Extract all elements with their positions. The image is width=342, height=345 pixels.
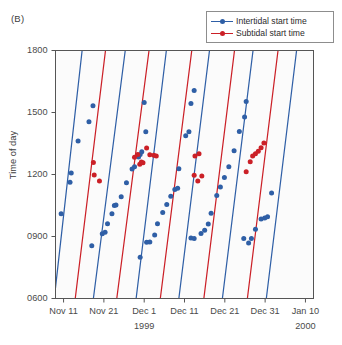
data-point xyxy=(192,88,197,93)
data-point xyxy=(261,141,266,146)
data-point xyxy=(164,202,169,207)
data-point xyxy=(244,169,249,174)
y-tick-label: 1200 xyxy=(14,169,48,179)
figure-panel-b: (B) Intertidal start time Subtidal start… xyxy=(0,0,342,345)
legend-item-intertidal: Intertidal start time xyxy=(211,15,328,27)
data-point xyxy=(147,240,152,245)
x-tick-label: Jan 10 xyxy=(275,306,335,316)
data-point xyxy=(218,184,223,189)
data-point xyxy=(259,145,264,150)
data-point xyxy=(76,139,81,144)
data-point xyxy=(119,194,124,199)
data-point xyxy=(160,210,165,215)
data-point xyxy=(253,227,258,232)
data-point xyxy=(244,99,249,104)
data-point xyxy=(242,115,247,120)
data-point xyxy=(135,152,140,157)
data-point xyxy=(105,221,110,226)
data-point xyxy=(124,180,129,185)
data-point xyxy=(143,129,148,134)
legend-marker-subtidal-icon xyxy=(211,27,233,39)
data-point xyxy=(113,202,118,207)
data-point xyxy=(90,103,95,108)
data-point xyxy=(86,119,91,124)
data-point xyxy=(152,233,157,238)
data-point xyxy=(232,148,237,153)
y-tick-label: 0900 xyxy=(14,231,48,241)
data-point xyxy=(202,228,207,233)
data-point xyxy=(103,230,108,235)
data-point xyxy=(155,221,160,226)
data-point xyxy=(142,100,147,105)
data-point xyxy=(195,179,200,184)
data-point xyxy=(183,133,188,138)
data-point xyxy=(92,173,97,178)
data-point xyxy=(248,159,253,164)
data-point xyxy=(144,146,149,151)
data-point xyxy=(222,175,227,180)
data-point xyxy=(175,186,180,191)
data-point xyxy=(188,101,193,106)
legend-label-subtidal: Subtidal start time xyxy=(233,27,305,39)
legend-label-intertidal: Intertidal start time xyxy=(233,15,307,27)
data-point xyxy=(197,151,202,156)
legend-item-subtidal: Subtidal start time xyxy=(211,27,328,39)
data-point xyxy=(168,194,173,199)
data-point xyxy=(214,193,219,198)
data-point xyxy=(246,241,251,246)
data-point xyxy=(237,129,242,134)
data-point xyxy=(206,222,211,227)
data-point xyxy=(199,173,204,178)
data-point xyxy=(241,236,246,241)
data-point xyxy=(132,164,137,169)
scatter-plot-canvas xyxy=(0,0,342,345)
data-point xyxy=(138,255,143,260)
data-point xyxy=(68,180,73,185)
data-point xyxy=(91,160,96,165)
data-point xyxy=(140,160,145,165)
data-point xyxy=(186,129,191,134)
x-axis-year-label: 2000 xyxy=(275,321,335,331)
data-point xyxy=(226,164,231,169)
y-tick-label: 1800 xyxy=(14,45,48,55)
data-point xyxy=(192,173,197,178)
data-point xyxy=(97,179,102,184)
legend-marker-intertidal-icon xyxy=(211,15,233,27)
x-axis-year-label: 1999 xyxy=(114,321,174,331)
data-point xyxy=(209,211,214,216)
data-point xyxy=(265,214,270,219)
data-point xyxy=(89,243,94,248)
data-point xyxy=(69,171,74,176)
chart-legend: Intertidal start time Subtidal start tim… xyxy=(206,11,334,43)
y-tick-label: 1500 xyxy=(14,107,48,117)
y-axis-title: Time of day xyxy=(8,115,18,195)
y-tick-label: 0600 xyxy=(14,293,48,303)
data-point xyxy=(59,211,64,216)
data-point xyxy=(249,236,254,241)
data-point xyxy=(176,166,181,171)
data-point xyxy=(192,236,197,241)
panel-label: (B) xyxy=(11,13,24,24)
data-point xyxy=(269,191,274,196)
data-point xyxy=(154,153,159,158)
data-point xyxy=(109,211,114,216)
